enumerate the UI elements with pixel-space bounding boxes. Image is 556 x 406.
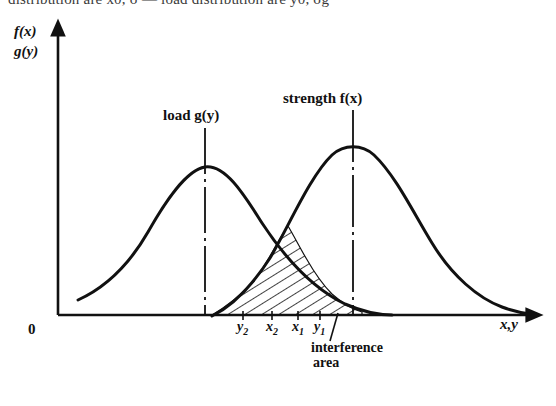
x-tick-label-x2: x2	[266, 319, 278, 337]
interference-line-1: interference	[311, 340, 383, 355]
x-tick-label-y2: y2	[237, 319, 248, 337]
load-density-curve	[78, 167, 392, 315]
y-axis-label-gy: g(y)	[14, 44, 38, 60]
x-tick-label-y1: y1	[314, 319, 325, 337]
x-axis-label: x,y	[500, 317, 518, 333]
y-axis-label-fx: f(x)	[14, 24, 37, 40]
plot-canvas	[0, 0, 556, 406]
interference-leader-line	[330, 313, 338, 341]
strength-curve-annotation: strength f(x)	[283, 91, 362, 107]
origin-label: 0	[28, 322, 36, 338]
stress-strength-interference-figure: distribution are x0, σ — load distributi…	[0, 0, 556, 406]
x-tick-label-x1: x1	[292, 319, 304, 337]
load-curve-annotation: load g(y)	[163, 108, 219, 124]
interference-line-2: area	[311, 356, 383, 371]
interference-area-annotation: interference area	[311, 341, 383, 370]
